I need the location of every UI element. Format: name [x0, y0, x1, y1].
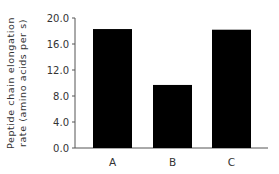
y-tick-label: 8.0 — [53, 91, 69, 102]
y-axis: 0.04.08.012.016.020.0 — [47, 13, 75, 154]
y-axis-title: Peptide chain elongationrate (amino acid… — [5, 17, 28, 149]
x-category-label: A — [109, 156, 117, 168]
y-tick-label: 0.0 — [53, 143, 69, 154]
x-category-label: B — [169, 156, 176, 168]
y-tick-label: 4.0 — [53, 117, 69, 128]
bar-chart: Peptide chain elongationrate (amino acid… — [0, 0, 279, 174]
y-axis-title-line: Peptide chain elongation — [5, 17, 16, 149]
y-tick-label: 20.0 — [47, 13, 69, 24]
y-tick-label: 12.0 — [47, 65, 69, 76]
bar-b — [153, 85, 192, 148]
y-axis-title-line: rate (amino acids per s) — [17, 19, 28, 147]
y-tick-label: 16.0 — [47, 39, 69, 50]
bars — [93, 29, 251, 148]
bar-c — [212, 30, 251, 148]
x-axis: ABC — [75, 148, 268, 168]
bar-a — [93, 29, 132, 148]
x-category-label: C — [228, 156, 235, 168]
